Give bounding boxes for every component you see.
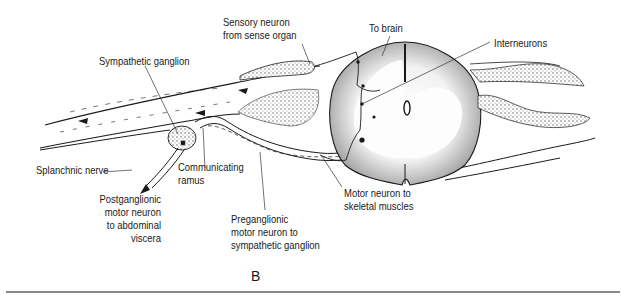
label-line: viscera	[74, 232, 161, 245]
label-sympathetic-ganglion: Sympathetic ganglion	[99, 55, 189, 68]
panel-letter: B	[251, 268, 260, 284]
label-line: sympathetic ganglion	[231, 239, 320, 252]
dorsal-root-ganglion	[240, 61, 314, 80]
label-line: skeletal muscles	[344, 200, 413, 213]
spinal-reflex-figure: Sensory neuron from sense organ To brain…	[0, 0, 621, 297]
label-interneurons: Interneurons	[494, 37, 547, 50]
label-communicating-ramus: Communicating ramus	[178, 161, 244, 187]
label-line: to abdominal	[74, 219, 161, 232]
sympathetic-ganglion	[168, 126, 196, 150]
label-sensory-neuron: Sensory neuron from sense organ	[223, 16, 297, 42]
label-line: motor neuron	[74, 206, 161, 219]
label-to-brain: To brain	[369, 22, 403, 35]
right-ventral-root	[478, 95, 590, 127]
label-line: Sensory neuron	[223, 16, 297, 29]
label-line: motor neuron to	[231, 226, 320, 239]
label-line: Communicating	[178, 161, 244, 174]
label-line: Postganglionic	[74, 193, 161, 206]
right-dorsal-root	[470, 64, 584, 86]
label-line: from sense organ	[223, 29, 297, 42]
label-postganglionic: Postganglionic motor neuron to abdominal…	[74, 193, 161, 245]
label-line: Motor neuron to	[344, 187, 413, 200]
label-motor-neuron: Motor neuron to skeletal muscles	[344, 187, 413, 213]
label-line: Preganglionic	[231, 213, 320, 226]
label-preganglionic: Preganglionic motor neuron to sympatheti…	[231, 213, 320, 252]
label-line: ramus	[178, 174, 244, 187]
label-splanchnic-nerve: Splanchnic nerve	[36, 164, 109, 177]
bottom-divider	[6, 291, 620, 293]
spinal-cord-section	[330, 42, 481, 185]
